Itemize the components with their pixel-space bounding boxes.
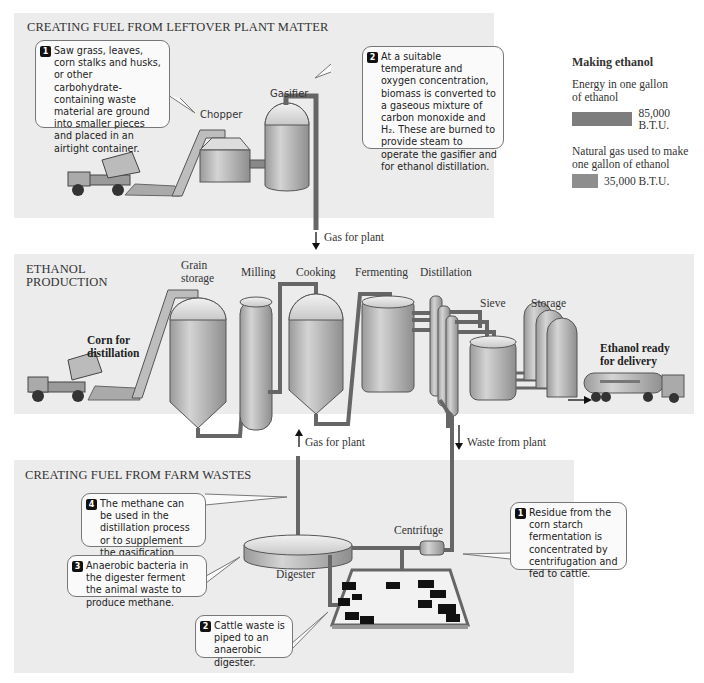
ethanol-production-title-line1: ETHANOL (26, 262, 86, 276)
step-badge: 1 (515, 508, 526, 519)
ethanol-ready-label-1: Ethanol ready (600, 342, 670, 355)
step-badge: 1 (40, 46, 51, 57)
legend-bar-ethanol (572, 112, 632, 126)
energy-legend: Making ethanol Energy in one gallon of e… (572, 55, 702, 202)
legend-item: 85,000 B.T.U. (572, 107, 702, 131)
farm-wastes-title: CREATING FUEL FROM FARM WASTES (25, 468, 251, 482)
legend-value: 35,000 B.T.U. (604, 175, 669, 187)
callout-text: Residue from the corn starch fermentatio… (529, 507, 618, 579)
chopper-icon (200, 138, 250, 182)
digester-icon (244, 535, 352, 569)
callout-farm-step-3: 3 Anaerobic bacteria in the digester fer… (67, 555, 207, 597)
waste-from-plant-label: Waste from plant (467, 436, 546, 448)
milling-label: Milling (241, 266, 276, 279)
step-badge: 2 (367, 52, 378, 63)
callout-plant-step-1: 1 Saw grass, leaves, corn stalks and hus… (35, 40, 170, 128)
cooking-label: Cooking (296, 266, 336, 279)
callout-farm-step-1: 1 Residue from the corn starch fermentat… (510, 502, 627, 570)
legend-item-label: Natural gas used to make one gallon of e… (572, 145, 700, 171)
corn-label-2: distillation (87, 347, 139, 360)
ethanol-production-title-line2: PRODUCTION (26, 275, 108, 289)
cooking-tank-icon (289, 294, 343, 414)
distillation-label: Distillation (420, 266, 472, 279)
callout-farm-step-2: 2 Cattle waste is piped to an anaerobic … (195, 615, 293, 658)
legend-title: Making ethanol (572, 55, 702, 70)
gasifier-icon (265, 103, 309, 191)
sieve-tank-icon (470, 336, 516, 400)
grain-storage-tank-icon (170, 298, 226, 428)
dump-truck-icon (68, 152, 140, 196)
callout-farm-step-4: 4 The methane can be used in the distill… (81, 493, 206, 547)
fermenting-tank-icon (362, 296, 414, 392)
gasifier-label: Gasifier (270, 87, 308, 100)
storage-label: Storage (531, 297, 566, 310)
callout-text: Anaerobic bacteria in the digester ferme… (86, 560, 188, 608)
storage-tanks-icon (524, 302, 577, 397)
step-badge: 4 (86, 499, 97, 510)
grain-storage-label-2: storage (181, 272, 214, 285)
gas-for-plant-up-label: Gas for plant (305, 436, 365, 448)
plant-matter-title: CREATING FUEL FROM LEFTOVER PLANT MATTER (27, 20, 328, 34)
step-badge: 2 (200, 621, 211, 632)
tanker-truck-icon (584, 373, 684, 403)
callout-plant-step-2: 2 At a suitable temperature and oxygen c… (362, 46, 504, 149)
sieve-label: Sieve (480, 297, 506, 310)
digester-label: Digester (276, 568, 315, 581)
ethanol-ready-label-2: for delivery (600, 355, 657, 368)
legend-bar-natural-gas (572, 174, 598, 188)
legend-value: 85,000 B.T.U. (638, 107, 702, 131)
gas-for-plant-down-label: Gas for plant (324, 231, 384, 243)
chopper-label: Chopper (200, 108, 242, 121)
step-badge: 3 (72, 561, 83, 572)
corn-label-1: Corn for (87, 334, 130, 347)
centrifuge-icon (420, 541, 444, 555)
grain-storage-label-1: Grain (181, 259, 207, 272)
legend-item: 35,000 B.T.U. (572, 174, 702, 188)
legend-item-label: Energy in one gallon of ethanol (572, 78, 672, 104)
milling-tank-icon (240, 297, 272, 430)
feedlot-icon (332, 570, 468, 629)
callout-text: At a suitable temperature and oxygen con… (381, 51, 497, 172)
centrifuge-label: Centrifuge (394, 524, 443, 537)
fermenting-label: Fermenting (355, 266, 408, 279)
